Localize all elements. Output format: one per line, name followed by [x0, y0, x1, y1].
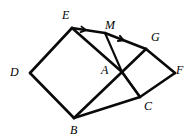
edge-G-F [146, 49, 175, 73]
edge-E-A [72, 28, 122, 72]
vertex-label-a: A [101, 64, 108, 76]
vertex-label-e: E [62, 9, 69, 21]
geometry-canvas [0, 0, 191, 140]
vertex-label-b: B [70, 124, 77, 136]
edge-D-E [30, 28, 72, 73]
edge-A-G [122, 49, 146, 72]
vertex-label-g: G [151, 31, 160, 43]
vertex-label-d: D [10, 66, 19, 78]
vertex-label-c: C [144, 100, 152, 112]
vertex-label-f: F [176, 64, 183, 76]
edge-A-C-median [122, 72, 140, 97]
edge-F-C [140, 73, 175, 97]
edge-B-D [30, 73, 74, 118]
vertex-label-m: M [105, 19, 115, 31]
geometry-figure: DEABMGFC [0, 0, 191, 140]
